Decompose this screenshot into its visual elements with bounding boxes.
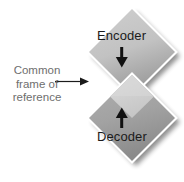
encoder-decoder-diagram: Encoder Decoder Common frame of referenc… [0, 0, 184, 182]
annotation-arrow-icon [55, 78, 89, 86]
diagram-canvas [0, 0, 184, 182]
